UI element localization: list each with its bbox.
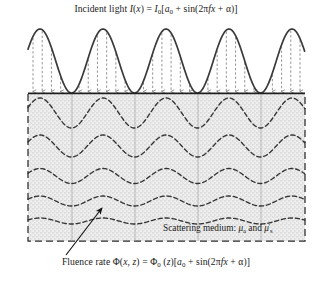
caption-tail: )]	[244, 256, 251, 267]
caption-equation: Fluence rate Φ(x, z) = Φ0 (z)[a0 + sin(2…	[62, 256, 250, 267]
illumination-arrows	[33, 31, 300, 92]
incident-light-waveform	[28, 29, 305, 93]
figure-caption: Fluence rate Φ(x, z) = Φ0 (z)[a0 + sin(2…	[0, 256, 312, 268]
caption-plus-sin: + sin(2	[186, 256, 216, 267]
figure-graphics	[0, 0, 312, 284]
scattering-medium-box	[28, 94, 305, 241]
caption-lead: Fluence rate	[62, 256, 113, 267]
caption-phi: Φ	[113, 256, 120, 267]
medium-and: and	[246, 223, 264, 233]
diffuse-optical-imaging-figure: Incident light I(x) = I0[a0 + sin(2πfx +…	[0, 0, 312, 284]
caption-equals: =	[140, 256, 151, 267]
scattering-medium-fill	[28, 94, 305, 241]
scattering-medium-label: Scattering medium: μa and μ's	[163, 222, 273, 234]
medium-lead: Scattering medium:	[163, 223, 238, 233]
caption-plus2: +	[228, 256, 239, 267]
mu-s-subscript: s	[270, 227, 273, 234]
